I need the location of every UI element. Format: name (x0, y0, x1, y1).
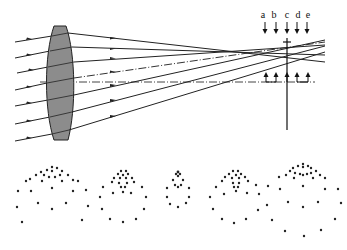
label-e: e (306, 9, 311, 20)
spot-diagram-b (99, 170, 147, 223)
lens (47, 26, 74, 140)
spot-diagram-d (209, 170, 260, 224)
label-b: b (272, 9, 277, 20)
label-a: a (261, 9, 266, 20)
spot-diagram-e (266, 163, 342, 237)
spot-diagram-a (16, 166, 89, 223)
lens-aberration-diagram: a b c d e (0, 0, 347, 250)
plane-labels: a b c d e (261, 9, 311, 20)
label-c: c (285, 9, 290, 20)
spot-diagram-c (166, 171, 190, 209)
label-d: d (296, 9, 301, 20)
